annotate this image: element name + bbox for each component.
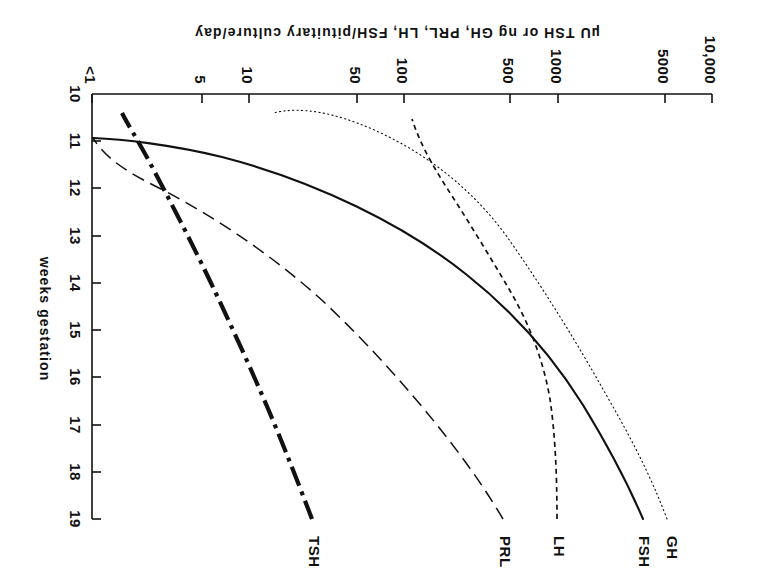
value-tick-label: 1000 [548,49,565,84]
series-label-tsh: TSH [306,536,323,568]
weeks-tick-label: 13 [67,227,84,245]
rotated-figure-container: 10,000 5000 1000 500 100 50 10 5 <1 µU T… [0,0,767,581]
value-tick-label: 10 [239,67,256,85]
weeks-tick-label: 14 [67,274,84,292]
value-axis-title: µU TSH or ng GH, PRL, LH, FSH/pituitary … [194,25,600,41]
value-tick-label: 5 [192,75,209,84]
weeks-axis-ticks [92,141,101,519]
value-tick-label: 500 [500,58,517,84]
value-axis-tick-labels: 10,000 5000 1000 500 100 50 10 5 <1 [82,36,719,84]
weeks-tick-label: 16 [67,368,84,386]
series-label-lh: LH [551,536,568,557]
weeks-tick-label: 15 [67,321,84,339]
value-tick-label: 100 [394,58,411,84]
hormone-secretion-chart: 10,000 5000 1000 500 100 50 10 5 <1 µU T… [0,0,767,581]
value-axis [92,94,712,103]
series-labels: GH FSH LH PRL TSH [306,536,681,568]
value-tick-label: 5000 [655,49,672,84]
weeks-tick-label: 12 [67,179,84,197]
series-line-tsh [122,113,312,519]
series-line-fsh [93,138,643,519]
series-line-lh [412,119,557,519]
weeks-tick-label: 10 [67,85,84,103]
weeks-tick-label: 18 [67,463,84,481]
weeks-axis [92,94,101,519]
value-axis-ticks [92,94,712,103]
weeks-axis-title: weeks gestation [37,256,53,382]
weeks-axis-tick-labels: 19 18 17 16 15 14 13 12 11 10 [67,85,84,528]
value-tick-label: 50 [347,67,364,85]
series-line-gh [273,110,667,519]
weeks-tick-label: 19 [67,510,84,528]
value-tick-label: <1 [82,66,99,84]
weeks-tick-label: 11 [67,133,84,150]
series-label-prl: PRL [497,536,514,568]
weeks-tick-label: 17 [67,416,84,434]
series-line-prl [93,138,503,519]
series-label-fsh: FSH [636,536,653,568]
value-tick-label: 10,000 [702,36,719,84]
series-label-gh: GH [664,536,681,560]
